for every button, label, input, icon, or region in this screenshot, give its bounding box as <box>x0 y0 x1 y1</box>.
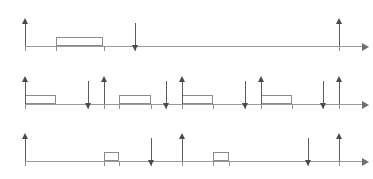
release-arrow-up-icon <box>339 23 340 46</box>
release-arrow-up-icon <box>182 138 183 161</box>
arrowhead-down-icon <box>163 103 169 109</box>
axis-tick <box>292 104 293 109</box>
time-axis <box>25 161 362 162</box>
release-arrow-up-icon <box>339 138 340 161</box>
arrowhead-up-icon <box>336 18 342 24</box>
axis-tick <box>104 161 105 166</box>
arrowhead-up-icon <box>22 133 28 139</box>
axis-tick <box>119 104 120 109</box>
axis-tick <box>182 104 183 109</box>
arrowhead-down-icon <box>320 103 326 109</box>
arrowhead-up-icon <box>179 133 185 139</box>
release-arrow-up-icon <box>25 23 26 46</box>
arrowhead-down-icon <box>148 160 154 166</box>
execution-block <box>25 95 56 104</box>
axis-tick <box>339 46 340 51</box>
figure-canvas <box>0 0 373 179</box>
deadline-arrow-down-icon <box>245 81 246 104</box>
arrowhead-up-icon <box>22 18 28 24</box>
arrowhead-up-icon <box>336 133 342 139</box>
time-axis <box>25 46 362 47</box>
axis-tick <box>104 46 105 51</box>
axis-tick <box>56 46 57 51</box>
timeline-tau-2 <box>0 63 373 122</box>
release-arrow-up-icon <box>261 81 262 104</box>
execution-block <box>213 152 229 161</box>
axis-arrowhead-icon <box>362 43 369 51</box>
arrowhead-down-icon <box>85 103 91 109</box>
axis-tick <box>213 104 214 109</box>
deadline-arrow-down-icon <box>308 138 309 161</box>
axis-tick <box>25 161 26 166</box>
arrowhead-up-icon <box>336 76 342 82</box>
axis-tick <box>119 161 120 166</box>
deadline-arrow-down-icon <box>323 81 324 104</box>
arrowhead-down-icon <box>305 160 311 166</box>
arrowhead-up-icon <box>22 76 28 82</box>
axis-tick <box>339 161 340 166</box>
release-arrow-up-icon <box>25 138 26 161</box>
execution-block <box>104 152 120 161</box>
execution-block <box>182 95 213 104</box>
execution-block <box>261 95 292 104</box>
release-arrow-up-icon <box>25 81 26 104</box>
axis-tick <box>261 104 262 109</box>
axis-tick <box>213 161 214 166</box>
time-axis <box>25 104 362 105</box>
axis-tick <box>339 104 340 109</box>
arrowhead-down-icon <box>242 103 248 109</box>
axis-arrowhead-icon <box>362 101 369 109</box>
axis-tick <box>25 104 26 109</box>
arrowhead-down-icon <box>132 45 138 51</box>
arrowhead-up-icon <box>179 76 185 82</box>
deadline-arrow-down-icon <box>135 23 136 46</box>
release-arrow-up-icon <box>104 81 105 104</box>
axis-tick <box>182 161 183 166</box>
timeline-tau-1 <box>0 5 373 64</box>
deadline-arrow-down-icon <box>151 138 152 161</box>
axis-tick <box>25 46 26 51</box>
axis-tick <box>151 104 152 109</box>
axis-arrowhead-icon <box>362 158 369 166</box>
axis-tick <box>229 161 230 166</box>
release-arrow-up-icon <box>182 81 183 104</box>
arrowhead-up-icon <box>258 76 264 82</box>
deadline-arrow-down-icon <box>88 81 89 104</box>
timeline-tau-3 <box>0 120 373 179</box>
arrowhead-up-icon <box>101 76 107 82</box>
release-arrow-up-icon <box>339 81 340 104</box>
execution-block <box>119 95 150 104</box>
deadline-arrow-down-icon <box>166 81 167 104</box>
axis-tick <box>104 104 105 109</box>
execution-block <box>56 37 103 46</box>
